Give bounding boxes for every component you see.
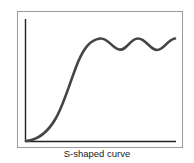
figure-caption: S-shaped curve xyxy=(0,148,194,159)
s-curve-plot xyxy=(0,0,194,163)
s-curve-line xyxy=(26,38,175,141)
